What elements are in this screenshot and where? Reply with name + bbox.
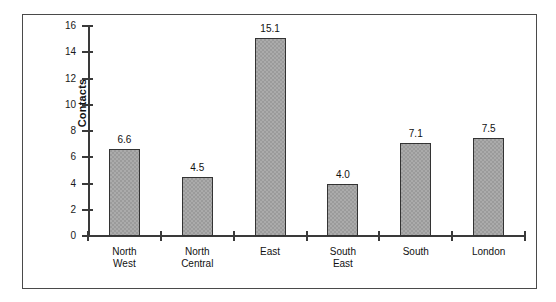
y-axis-tick — [82, 130, 93, 132]
y-axis-tick-label-wrap: 6 — [52, 152, 76, 162]
y-axis-tick-label-wrap: 4 — [52, 179, 76, 189]
y-axis-tick — [82, 156, 93, 158]
y-axis-tick — [82, 78, 93, 80]
x-axis-category-label: North West — [87, 246, 161, 270]
x-axis-tick — [233, 231, 235, 241]
bar-value-label: 15.1 — [245, 23, 295, 34]
y-axis-tick-label: 14 — [52, 47, 76, 57]
y-axis-tick-label-wrap: 8 — [52, 126, 76, 136]
y-axis-tick — [82, 51, 93, 53]
bar — [109, 149, 140, 236]
bar — [182, 177, 213, 236]
x-axis-category-label: London — [452, 246, 526, 258]
bar — [473, 138, 504, 236]
bar-value-label: 7.1 — [391, 128, 441, 139]
y-axis-tick-label-wrap: 0 — [52, 231, 76, 241]
y-axis-tick-label: 0 — [52, 231, 76, 241]
y-axis-tick — [82, 209, 93, 211]
y-axis-tick-label: 8 — [52, 126, 76, 136]
x-axis-tick — [524, 231, 526, 241]
bar-value-label: 4.5 — [172, 162, 222, 173]
y-axis-tick-label: 2 — [52, 205, 76, 215]
y-axis-tick-label-wrap: 14 — [52, 47, 76, 57]
bar — [400, 143, 431, 236]
y-axis-tick-label-wrap: 12 — [52, 74, 76, 84]
bar — [255, 38, 286, 236]
x-axis-category-label: North Central — [160, 246, 234, 270]
y-axis-tick — [82, 183, 93, 185]
y-axis-tick-label: 12 — [52, 74, 76, 84]
x-axis-tick — [160, 231, 162, 241]
x-axis-category-label: East — [233, 246, 307, 258]
y-axis-tick-label: 6 — [52, 152, 76, 162]
x-axis-tick — [306, 231, 308, 241]
y-axis-tick-label-wrap: 16 — [52, 21, 76, 31]
x-axis-category-label: South East — [306, 246, 380, 270]
y-axis-tick — [82, 25, 93, 27]
x-axis-tick — [378, 231, 380, 241]
y-axis-tick — [82, 104, 93, 106]
bar-value-label: 4.0 — [318, 169, 368, 180]
y-axis-tick-label-wrap: 10 — [52, 100, 76, 110]
y-axis-tick-label: 10 — [52, 100, 76, 110]
bar-value-label: 7.5 — [464, 123, 514, 134]
x-axis-tick — [87, 231, 89, 241]
x-axis-tick — [451, 231, 453, 241]
y-axis-tick-label-wrap: 2 — [52, 205, 76, 215]
x-axis-category-label: South — [379, 246, 453, 258]
y-axis-tick-label: 16 — [52, 21, 76, 31]
bar — [327, 184, 358, 237]
bar-value-label: 6.6 — [99, 134, 149, 145]
y-axis-tick-label: 4 — [52, 179, 76, 189]
bar-chart-figure: Contacts 1614121086420 6.64.515.14.07.17… — [0, 0, 556, 302]
